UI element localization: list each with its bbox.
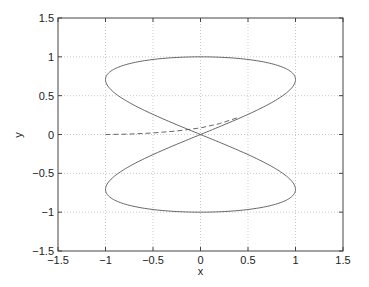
y-tick-label: −1.5 [32,245,54,257]
y-tick-label: 1.5 [39,12,54,24]
x-tick-label: 1 [292,254,298,266]
y-tick-label: 0.5 [39,90,54,102]
x-tick-label: 1.5 [335,254,350,266]
dashed-series-line [106,117,239,134]
y-tick-label: −1 [41,206,54,218]
x-tick-label: 0.5 [240,254,255,266]
y-tick-label: −0.5 [32,167,54,179]
line-chart: −1.5−1−0.500.511.5 −1.5−1−0.500.511.5 x … [0,0,369,287]
x-axis-label: x [198,265,204,277]
y-tick-label: 1 [48,51,54,63]
x-tick-label: −0.5 [142,254,164,266]
y-axis-label: y [12,132,24,138]
y-tick-labels: −1.5−1−0.500.511.5 [32,12,54,257]
x-tick-label: −1 [99,254,112,266]
y-tick-label: 0 [48,129,54,141]
